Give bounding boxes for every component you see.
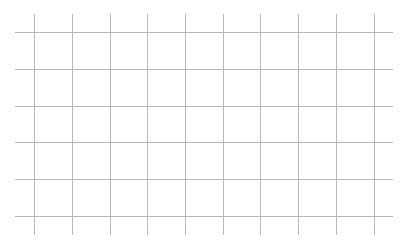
grid-vertical-line bbox=[336, 14, 337, 235]
grid-vertical-line bbox=[34, 14, 35, 235]
grid-vertical-line bbox=[72, 14, 73, 235]
grid-vertical-line bbox=[298, 14, 299, 235]
grid-vertical-line bbox=[374, 14, 375, 235]
grid-vertical-line bbox=[110, 14, 111, 235]
grid-vertical-line bbox=[260, 14, 261, 235]
grid-vertical-line bbox=[223, 14, 224, 235]
grid-horizontal-line bbox=[15, 32, 393, 33]
grid-vertical-line bbox=[147, 14, 148, 235]
grid-vertical-line bbox=[185, 14, 186, 235]
grid-horizontal-line bbox=[15, 216, 393, 217]
grid-horizontal-line bbox=[15, 69, 393, 70]
grid bbox=[0, 0, 401, 248]
grid-horizontal-line bbox=[15, 179, 393, 180]
grid-horizontal-line bbox=[15, 106, 393, 107]
grid-horizontal-line bbox=[15, 142, 393, 143]
